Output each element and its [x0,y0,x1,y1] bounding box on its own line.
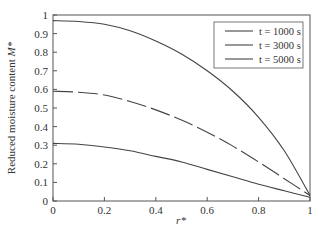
line-chart: 00.20.40.60.8100.10.20.30.40.50.60.70.80… [0,0,326,241]
y-axis-label-var: M* [5,41,17,57]
y-tick-label: 0.6 [34,83,48,95]
legend-label: t = 1000 s [259,26,301,37]
y-axis-label-main: Reduced moisture content [5,57,17,175]
y-tick-label: 0.8 [34,46,48,58]
x-tick-label: 0.6 [200,204,214,216]
x-tick-label: 0.8 [252,204,266,216]
legend: t = 1000 st = 3000 st = 5000 s [214,22,303,68]
x-tick-label: 0.2 [98,204,112,216]
y-tick-label: 0.1 [34,176,48,188]
legend-label: t = 5000 s [259,54,301,65]
legend-label: t = 3000 s [259,40,301,51]
y-tick-label: 0.9 [34,28,48,40]
y-tick-label: 0.4 [34,121,48,133]
y-tick-label: 0.7 [34,65,48,77]
y-tick-label: 0.5 [34,102,48,114]
x-tick-label: 1 [307,204,313,216]
x-tick-label: 0 [50,204,56,216]
x-tick-label: 0.4 [149,204,163,216]
y-tick-label: 0 [43,195,49,207]
x-axis-label: r* [176,214,186,226]
y-tick-label: 0.3 [34,139,48,151]
series-line-2 [53,91,310,195]
y-tick-label: 0.2 [34,158,48,170]
y-tick-label: 1 [43,9,49,21]
y-axis-label: Reduced moisture content M* [5,41,17,174]
